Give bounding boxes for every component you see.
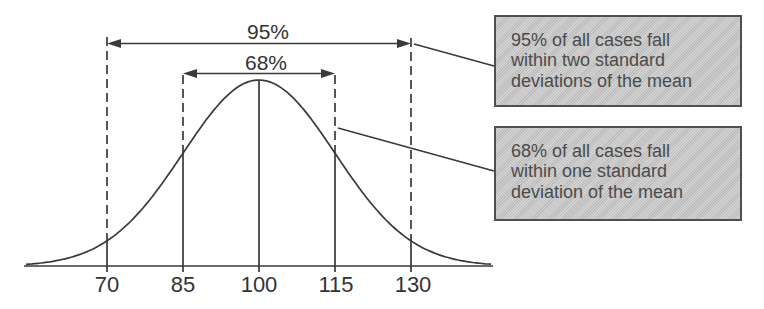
arrow-95-right-arrowhead-icon <box>397 39 411 48</box>
tick-label-100: 100 <box>241 272 278 297</box>
tick-label-115: 115 <box>318 272 353 297</box>
arrow-68-left-arrowhead-icon <box>183 69 197 78</box>
callout-line-68 <box>338 128 494 171</box>
tick-label-130: 130 <box>395 272 432 297</box>
normal-distribution-figure: 95% 68% 70 85 100 115 130 95% of all cas… <box>0 0 764 309</box>
callout-68-text-line-1: 68% of all cases fall <box>511 141 734 161</box>
tick-label-70: 70 <box>95 272 119 297</box>
tick-label-85: 85 <box>171 272 195 297</box>
callout-68-text-line-3: deviation of the mean <box>511 182 734 202</box>
callout-box-95: 95% of all cases fall within two standar… <box>494 15 742 107</box>
arrow-95-left-arrowhead-icon <box>107 39 121 48</box>
callout-68-text-line-2: within one standard <box>511 161 734 181</box>
callout-box-68: 68% of all cases fall within one standar… <box>494 126 742 221</box>
callout-95-text-line-2: within two standard <box>511 50 734 70</box>
callout-95-text-line-1: 95% of all cases fall <box>511 30 734 50</box>
label-68-percent: 68% <box>245 51 287 74</box>
callout-95-text-line-3: deviations of the mean <box>511 71 734 91</box>
label-95-percent: 95% <box>247 20 289 43</box>
callout-line-95 <box>414 44 494 66</box>
arrow-68-right-arrowhead-icon <box>321 69 335 78</box>
